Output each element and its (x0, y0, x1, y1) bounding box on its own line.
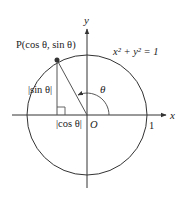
equation-label: x² + y² = 1 (112, 46, 159, 57)
origin-label: O (90, 119, 98, 130)
theta-arc (78, 93, 109, 115)
theta-label: θ (100, 83, 106, 95)
unit-circle-diagram: y x O 1 x² + y² = 1 P(cos θ, sin θ) θ |s… (0, 0, 188, 200)
x-axis-label: x (169, 109, 175, 121)
right-angle-marker (57, 107, 65, 115)
point-p (55, 58, 60, 63)
radius-label: 1 (149, 120, 154, 131)
sin-label: |sin θ| (28, 84, 52, 95)
y-axis-label: y (83, 14, 89, 26)
cos-label: |cos θ| (56, 118, 82, 129)
point-label: P(cos θ, sin θ) (16, 39, 76, 51)
